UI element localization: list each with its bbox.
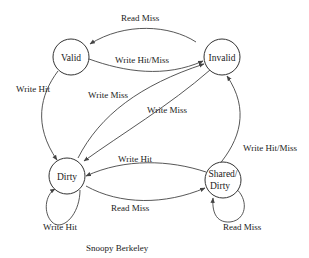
edge-label-shared-to-invalid: Write Hit/Miss	[243, 143, 297, 153]
state-shared-dirty: Shared/ Dirty	[205, 162, 241, 198]
edge-label-invalid-to-valid: Read Miss	[121, 13, 160, 23]
state-invalid-label: Invalid	[209, 53, 236, 63]
state-valid: Valid	[53, 39, 89, 75]
edge-invalid-to-dirty	[84, 70, 210, 161]
edge-label-dirty-to-invalid: Write Miss	[88, 90, 128, 100]
diagram-caption: Snoopy Berkeley	[86, 243, 149, 253]
edge-label-shared-to-dirty: Write Hit	[118, 154, 152, 164]
edge-dirty-self-loop	[46, 189, 80, 225]
state-valid-label: Valid	[61, 53, 81, 63]
edge-invalid-to-valid	[90, 28, 196, 44]
edge-dirty-to-shared	[86, 186, 205, 201]
state-dirty: Dirty	[49, 158, 85, 194]
state-diagram: Read Miss Write Hit/Miss Write Hit Write…	[0, 0, 309, 258]
edge-label-shared-self: Read Miss	[223, 222, 262, 232]
edge-label-dirty-self: Write Hit	[43, 222, 77, 232]
edge-shared-to-dirty	[86, 163, 206, 176]
edge-label-valid-to-dirty: Write Hit	[16, 84, 50, 94]
edge-label-dirty-to-shared: Read Miss	[111, 203, 150, 213]
edge-label-invalid-to-dirty: Write Miss	[147, 105, 187, 115]
state-invalid: Invalid	[204, 39, 240, 75]
state-dirty-label: Dirty	[57, 172, 77, 182]
state-shared-dirty-label-line2: Dirty	[210, 181, 230, 191]
state-shared-dirty-label-line1: Shared/	[208, 169, 237, 179]
edge-label-valid-to-invalid: Write Hit/Miss	[115, 55, 169, 65]
edge-shared-to-invalid	[218, 76, 240, 166]
